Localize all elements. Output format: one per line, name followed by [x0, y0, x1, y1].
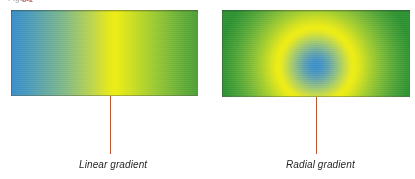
linear-gradient-leader-line	[110, 96, 111, 154]
figure-caption-remnant: Figure 6-1	[8, 0, 148, 7]
radial-gradient-leader-line	[316, 97, 317, 154]
radial-gradient-swatch	[222, 10, 410, 97]
linear-gradient-plate	[11, 10, 198, 96]
linear-gradient-swatch	[11, 10, 198, 96]
radial-gradient-label: Radial gradient	[286, 159, 355, 170]
figure-caption-number: 6-1	[22, 0, 33, 4]
radial-gradient-plate	[222, 10, 410, 97]
linear-gradient-label: Linear gradient	[79, 159, 147, 170]
